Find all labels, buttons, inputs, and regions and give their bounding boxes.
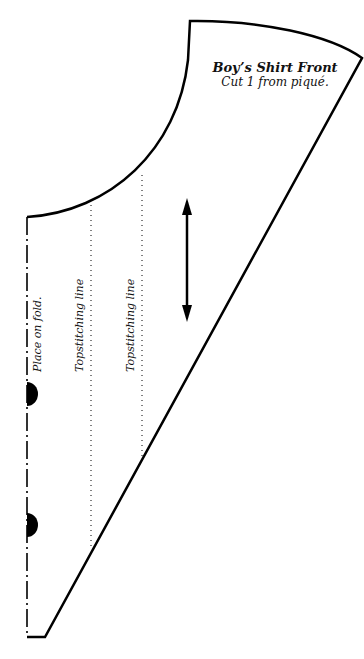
- fold-label: Place on fold.: [31, 296, 44, 372]
- pattern-piece: [0, 0, 364, 659]
- notch-icon: [27, 382, 38, 406]
- grainline-arrow-icon: [182, 198, 192, 322]
- pattern-title-block: Boy’s Shirt Front Cut 1 from piqué.: [190, 60, 360, 89]
- cut-instruction: Cut 1 from piqué.: [190, 75, 360, 89]
- topstitch-label-1: Topstitching line: [73, 279, 86, 372]
- notch-icon: [27, 513, 38, 537]
- topstitch-label-2: Topstitching line: [124, 279, 137, 372]
- pattern-title: Boy’s Shirt Front: [190, 60, 360, 75]
